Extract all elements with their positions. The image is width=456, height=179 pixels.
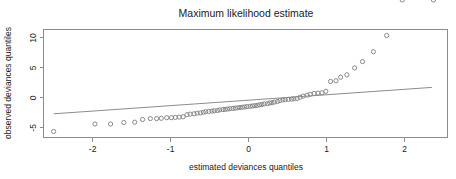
- x-tick-label: -2: [89, 144, 97, 154]
- x-axis-label: estimated deviances quantiles: [189, 162, 303, 172]
- data-point: [371, 50, 375, 54]
- data-point: [328, 79, 332, 83]
- data-point: [400, 0, 404, 2]
- data-point: [154, 117, 158, 121]
- y-tick-label: 10: [28, 33, 38, 43]
- reference-line: [54, 87, 432, 113]
- scatter-points: [52, 0, 436, 134]
- chart-title: Maximum likelihood estimate: [179, 7, 314, 19]
- y-tick-label: 0: [28, 95, 38, 100]
- data-point: [353, 66, 357, 70]
- data-point: [339, 75, 343, 79]
- data-point: [108, 122, 112, 126]
- x-tick-label: 0: [246, 144, 251, 154]
- x-tick-label: 2: [402, 144, 407, 154]
- data-point: [385, 33, 389, 37]
- plot-frame: [44, 30, 448, 138]
- data-point: [360, 60, 364, 64]
- data-point: [334, 79, 338, 83]
- data-point: [159, 116, 163, 120]
- data-point: [52, 129, 56, 133]
- data-point: [324, 89, 328, 93]
- data-point: [148, 117, 152, 121]
- data-point: [140, 117, 144, 121]
- chart-canvas: Maximum likelihood estimate -2-1012 -505…: [0, 0, 456, 179]
- data-point: [165, 116, 169, 120]
- qq-plot-figure: Maximum likelihood estimate -2-1012 -505…: [0, 0, 456, 179]
- y-tick-label: -5: [28, 124, 38, 132]
- x-tick-label: -1: [167, 144, 175, 154]
- y-tick-label: 5: [28, 65, 38, 70]
- y-axis-label: observed deviances quantiles: [3, 27, 13, 139]
- x-tick-label: 1: [324, 144, 329, 154]
- data-point: [345, 73, 349, 77]
- y-axis-ticks: -50510: [28, 33, 44, 132]
- data-point: [93, 122, 97, 126]
- data-point: [431, 0, 435, 2]
- data-point: [133, 120, 137, 124]
- data-point: [122, 120, 126, 124]
- x-axis-ticks: -2-1012: [89, 138, 407, 154]
